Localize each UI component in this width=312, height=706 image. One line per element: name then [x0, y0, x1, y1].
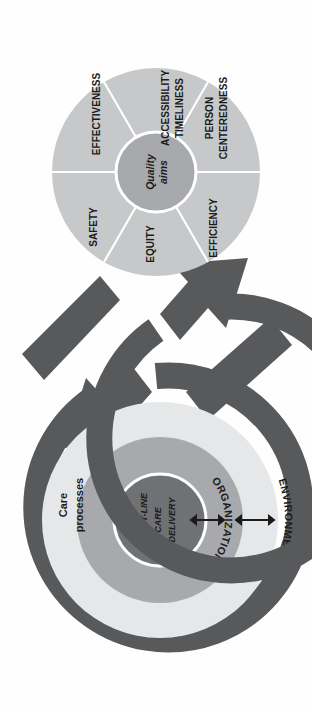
hub-label-line1: Quality: [144, 153, 156, 190]
spoke-label-effectiveness: EFFECTIVENESS: [91, 73, 102, 156]
spoke-label-equity: EQUITY: [145, 225, 156, 263]
figure-canvas: FRONT-LINE CARE DELIVERY ORGANIZATION EN…: [0, 0, 312, 706]
spoke-1-line2: CENTEREDNESS: [218, 77, 229, 160]
hub-label-line2: aims: [157, 160, 169, 184]
spoke-3-line1: EQUITY: [145, 225, 156, 263]
spoke-1-line1: PERSON: [204, 97, 215, 139]
spoke-4-line1: SAFETY: [88, 207, 99, 247]
care-processes-line2: processes: [73, 478, 85, 532]
core-label-line3: DELIVERY: [167, 497, 177, 543]
quality-framework-figure: FRONT-LINE CARE DELIVERY ORGANIZATION EN…: [0, 0, 312, 706]
core-label-line2: CARE: [153, 506, 163, 532]
spoke-0-line1: ACCESSIBILITY: [160, 70, 171, 146]
spoke-5-line1: EFFECTIVENESS: [91, 73, 102, 156]
spoke-label-efficiency: EFFICIENCY: [208, 198, 219, 258]
quality-aims-hub: [116, 132, 196, 212]
spoke-0-line2: TIMELINESS: [174, 78, 185, 138]
care-processes-line1: Care: [57, 493, 69, 517]
spoke-label-safety: SAFETY: [88, 207, 99, 247]
spoke-2-line1: EFFICIENCY: [208, 198, 219, 258]
